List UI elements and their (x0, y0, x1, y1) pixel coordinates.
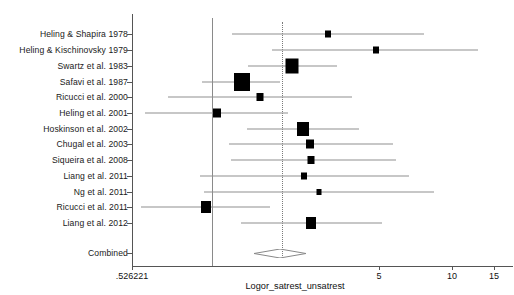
y-axis-tick (127, 223, 132, 224)
y-axis-tick (127, 176, 132, 177)
effect-size-marker (201, 201, 211, 213)
y-axis-line (132, 14, 133, 266)
x-axis-title: Logor_satrest_unsatrest (245, 281, 344, 291)
effect-size-marker (308, 156, 315, 164)
x-axis-line (132, 266, 513, 267)
x-axis-tick-3 (494, 266, 495, 270)
effect-size-marker (373, 47, 379, 54)
x-axis-tick-2 (452, 266, 453, 270)
effect-size-marker (301, 173, 307, 180)
study-label-0: Heling & Shapira 1978 (40, 30, 128, 39)
pooled-effect-diamond (254, 244, 306, 262)
y-axis-tick (127, 144, 132, 145)
study-label-7: Chugal et al. 2003 (56, 140, 128, 149)
effect-size-marker (297, 122, 309, 136)
y-axis-tick (127, 253, 132, 254)
study-label-10: Ng et al. 2011 (74, 188, 128, 197)
x-axis-tick-label-2: 10 (447, 271, 457, 281)
effect-size-marker (286, 59, 299, 74)
study-label-3: Safavi et al. 1987 (60, 78, 128, 87)
x-axis-tick-0 (132, 266, 133, 270)
study-label-4: Ricucci et al. 2000 (56, 93, 128, 102)
study-label-8: Siqueira et al. 2008 (52, 156, 128, 165)
study-label-1: Heling & Kischinovsky 1979 (19, 46, 128, 55)
effect-size-marker (213, 109, 221, 118)
x-axis-tick-label-3: 15 (489, 271, 499, 281)
y-axis-tick (127, 113, 132, 114)
x-axis-tick-label-1: 5 (376, 271, 381, 281)
effect-size-marker (306, 217, 316, 229)
y-axis-tick (127, 34, 132, 35)
y-axis-tick (127, 50, 132, 51)
y-axis-tick (127, 129, 132, 130)
study-label-9: Liang et al. 2011 (63, 172, 128, 181)
study-label-5: Heling et al. 2001 (59, 109, 128, 118)
y-axis-tick (127, 160, 132, 161)
study-label-2: Swartz et al. 1983 (57, 62, 128, 71)
study-label-11: Ricucci et al. 2011 (57, 203, 128, 212)
effect-size-marker (234, 73, 250, 91)
y-axis-tick (127, 207, 132, 208)
effect-size-marker (257, 93, 264, 101)
effect-size-marker (306, 140, 314, 149)
y-axis-tick (127, 192, 132, 193)
y-axis-tick (127, 82, 132, 83)
study-label-column: Heling & Shapira 1978Heling & Kischinovs… (0, 0, 128, 295)
study-label-12: Liang et al. 2012 (63, 219, 128, 228)
combined-label: Combined (88, 249, 128, 258)
study-label-6: Hoskinson et al. 2002 (43, 125, 128, 134)
x-axis-tick-label-0: .526221 (116, 271, 149, 281)
y-axis-tick (127, 97, 132, 98)
effect-size-marker (325, 31, 331, 38)
forest-plot: Heling & Shapira 1978Heling & Kischinovs… (0, 0, 514, 295)
x-axis-tick-1 (379, 266, 380, 270)
null-reference-line (212, 18, 213, 266)
effect-size-marker (317, 189, 322, 195)
y-axis-tick (127, 66, 132, 67)
